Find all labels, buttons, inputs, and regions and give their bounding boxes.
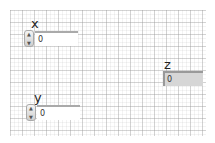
control-y-label: y <box>34 91 42 104</box>
indicator-z-field: 0 <box>163 71 203 86</box>
control-x-field[interactable]: 0 <box>35 31 78 46</box>
control-y[interactable]: ▲▼ 0 <box>26 105 80 119</box>
increment-decrement-icon[interactable]: ▲▼ <box>26 104 36 121</box>
increment-decrement-icon[interactable]: ▲▼ <box>24 30 34 47</box>
indicator-z-label: z <box>164 58 171 71</box>
control-x[interactable]: ▲▼ 0 <box>24 31 78 45</box>
control-x-label: x <box>31 17 39 30</box>
control-y-field[interactable]: 0 <box>37 105 80 120</box>
